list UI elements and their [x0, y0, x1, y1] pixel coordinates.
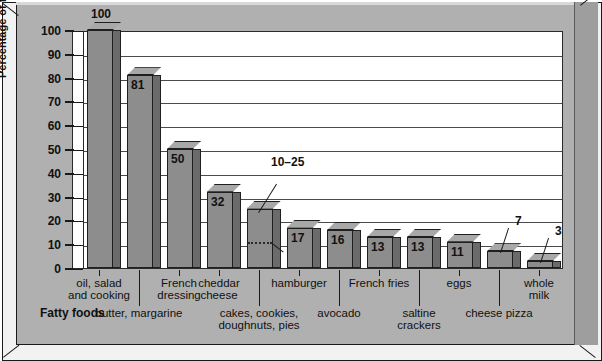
bar-value-label: 3	[555, 225, 562, 237]
bar-value-label: 32	[211, 196, 224, 208]
y-axis-strip-tick	[72, 102, 83, 103]
y-axis-strip-tick	[72, 198, 83, 199]
bar-top-face	[447, 234, 481, 242]
y-tick-label: 100	[25, 25, 61, 37]
bar	[87, 22, 121, 268]
y-tick-label: 60	[25, 120, 61, 132]
gridline	[84, 56, 562, 57]
y-axis-strip-tick	[72, 79, 83, 80]
bar-front-face	[127, 75, 153, 268]
bar-side-face	[153, 75, 161, 268]
bar-value-label: 50	[171, 153, 184, 165]
bar-front-face	[247, 209, 273, 269]
bar-side-face	[113, 30, 121, 268]
y-tick-label: 70	[25, 96, 61, 108]
y-axis-strip-tick	[72, 31, 83, 32]
bar-side-face	[433, 237, 441, 268]
bar-value-label: 81	[131, 79, 144, 91]
bar-side-face	[473, 242, 481, 268]
x-axis-title: Fatty foods	[40, 306, 105, 320]
bar-side-face	[193, 149, 201, 268]
y-axis-strip-tick	[72, 221, 83, 222]
x-tick-mark	[99, 270, 100, 276]
bar	[487, 243, 521, 268]
bar-front-face	[487, 251, 513, 268]
board-top-bevel	[16, 2, 598, 5]
y-axis-strip-tick	[72, 269, 83, 270]
bar-value-label: 10–25	[271, 156, 304, 168]
y-tick-label: 10	[25, 239, 61, 251]
range-low-dotted-line	[248, 242, 272, 244]
bar-top-face	[407, 229, 441, 237]
bar-value-label: 16	[331, 234, 344, 246]
y-tick-label: 80	[25, 73, 61, 85]
bar-top-face	[327, 222, 361, 230]
x-tick-mark	[179, 270, 180, 276]
x-tick-label: whole milk	[491, 277, 587, 301]
bar	[127, 67, 161, 268]
bar-side-face	[393, 237, 401, 268]
x-tick-mark	[299, 270, 300, 276]
bar-top-face	[87, 22, 121, 30]
x-tick-mark	[219, 270, 220, 276]
bar-side-face	[553, 261, 561, 268]
chart-frame: Percentage of fat by weight 010203040506…	[0, 0, 602, 361]
bar-top-face	[367, 229, 401, 237]
y-tick-label: 90	[25, 49, 61, 61]
bar-side-face	[233, 192, 241, 268]
x-tick-mark	[539, 270, 540, 276]
bar-top-face	[167, 141, 201, 149]
bar-top-face	[527, 253, 561, 261]
y-axis-title: Percentage of fat by weight	[0, 0, 8, 78]
bar-value-label: 100	[91, 8, 111, 20]
bar-top-face	[287, 220, 321, 228]
y-tick-label: 0	[25, 263, 61, 275]
y-axis-strip-tick	[72, 55, 83, 56]
bar-top-face	[487, 243, 521, 251]
x-tick-label: butter, margarine	[91, 307, 187, 319]
bar-side-face	[513, 251, 521, 268]
y-tick-label: 50	[25, 144, 61, 156]
bar-value-label: 13	[411, 241, 424, 253]
bar-side-face	[353, 230, 361, 268]
y-tick-label: 30	[25, 192, 61, 204]
bar-value-label: 11	[451, 246, 464, 258]
y-axis-strip-tick	[72, 174, 83, 175]
bar-side-face	[273, 209, 281, 269]
bar-value-label: 17	[291, 232, 304, 244]
y-tick-label: 40	[25, 168, 61, 180]
x-tick-label: cheese pizza	[451, 307, 547, 319]
bar-side-face	[313, 228, 321, 268]
y-tick-label: 20	[25, 215, 61, 227]
y-axis-strip-tick	[72, 150, 83, 151]
x-tick-mark	[379, 270, 380, 276]
bar-value-label: 13	[371, 241, 384, 253]
bar-value-label: 7	[515, 215, 522, 227]
bar-top-face	[207, 184, 241, 192]
bar-top-face	[127, 67, 161, 75]
bar-front-face	[87, 30, 113, 268]
plot-area: 10081503210–25171613131173	[83, 31, 563, 269]
x-tick-mark	[459, 270, 460, 276]
bar	[527, 253, 561, 268]
bar	[247, 201, 281, 269]
y-axis-strip-tick	[72, 126, 83, 127]
bar-front-face	[167, 149, 193, 268]
y-axis-strip-tick	[72, 245, 83, 246]
